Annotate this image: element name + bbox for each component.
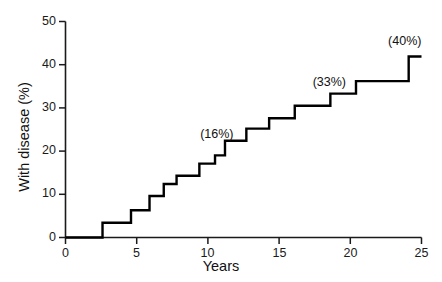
- axes-group: [59, 22, 422, 245]
- annotation-16-percent: (16%): [200, 127, 233, 141]
- data-series-group: [66, 56, 422, 237]
- chart-figure: 50 40 30 20 10 0 0 5 10 15 20 25 With di…: [0, 0, 442, 282]
- step-curve-cumulative-incidence: [66, 56, 422, 237]
- x-axis-title: Years: [0, 258, 442, 274]
- y-axis-title: With disease (%): [16, 57, 32, 217]
- chart-canvas: [0, 0, 442, 282]
- annotation-40-percent: (40%): [388, 34, 421, 48]
- y-tick-label-0: 0: [30, 230, 56, 244]
- y-axis-ticks: [59, 22, 66, 238]
- y-tick-label-30: 30: [30, 100, 56, 114]
- annotation-33-percent: (33%): [313, 75, 346, 89]
- x-axis-ticks: [66, 238, 422, 245]
- y-tick-label-10: 10: [30, 186, 56, 200]
- y-tick-label-40: 40: [30, 57, 56, 71]
- y-tick-label-20: 20: [30, 143, 56, 157]
- y-tick-label-50: 50: [30, 14, 56, 28]
